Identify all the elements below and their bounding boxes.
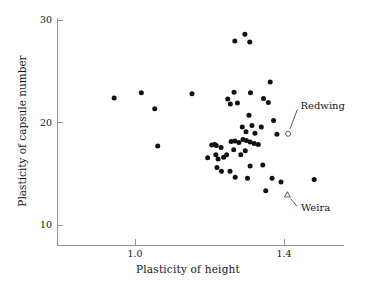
marker-filled-circle (243, 148, 248, 153)
marker-filled-circle (259, 125, 264, 130)
marker-filled-circle (209, 143, 214, 148)
marker-filled-circle (266, 100, 271, 105)
y-tick-label: 20 (30, 117, 52, 128)
x-tick-label: 1.4 (269, 248, 299, 259)
marker-filled-circle (216, 156, 221, 161)
marker-filled-circle (231, 147, 236, 152)
marker-filled-circle (240, 125, 245, 130)
x-axis-title: Plasticity of height (0, 263, 376, 275)
marker-filled-circle (279, 179, 284, 184)
annotation-label: Redwing (301, 100, 345, 111)
marker-filled-circle (219, 169, 224, 174)
marker-filled-circle (235, 101, 240, 106)
marker-filled-circle (219, 145, 224, 150)
marker-filled-circle (252, 131, 257, 136)
marker-filled-circle (221, 155, 226, 160)
marker-filled-circle (152, 106, 157, 111)
y-tick-label: 10 (30, 219, 52, 230)
annotation-leader-line (290, 109, 298, 129)
marker-filled-circle (245, 176, 250, 181)
marker-filled-circle (236, 140, 241, 145)
marker-filled-circle (205, 155, 210, 160)
marker-filled-circle (238, 152, 243, 157)
marker-filled-circle (232, 39, 237, 44)
y-axis-title-wrapper: Plasticity of capsule number (16, 21, 32, 241)
marker-filled-circle (270, 176, 275, 181)
data-points (112, 32, 317, 197)
annotation-leader-line (291, 199, 297, 207)
marker-filled-circle (249, 123, 254, 128)
marker-open-triangle (285, 192, 291, 197)
marker-filled-circle (227, 169, 232, 174)
marker-filled-circle (274, 132, 279, 137)
marker-filled-circle (247, 40, 252, 45)
marker-filled-circle (246, 113, 251, 118)
marker-filled-circle (268, 80, 273, 85)
marker-filled-circle (261, 96, 266, 101)
y-tick-label: 30 (30, 14, 52, 25)
marker-filled-circle (112, 95, 117, 100)
marker-filled-circle (225, 96, 230, 101)
marker-filled-circle (214, 165, 219, 170)
marker-filled-circle (260, 163, 265, 168)
marker-filled-circle (244, 129, 249, 134)
marker-filled-circle (263, 188, 268, 193)
marker-filled-circle (242, 32, 247, 37)
marker-filled-circle (189, 91, 194, 96)
marker-filled-circle (312, 177, 317, 182)
x-tick-label: 1.0 (120, 248, 150, 259)
marker-filled-circle (248, 164, 253, 169)
marker-open-circle (286, 131, 291, 136)
marker-filled-circle (233, 175, 238, 180)
marker-filled-circle (232, 90, 237, 95)
marker-filled-circle (228, 102, 233, 107)
marker-filled-circle (155, 144, 160, 149)
annotation-label: Weira (301, 202, 330, 213)
marker-filled-circle (256, 142, 261, 147)
scatter-plot-figure: 1020301.01.4 RedwingWeira Plasticity of … (0, 0, 376, 288)
marker-filled-circle (271, 118, 276, 123)
marker-filled-circle (214, 143, 219, 148)
plot-canvas (0, 0, 376, 288)
annotation-leader-lines (290, 109, 298, 206)
marker-filled-circle (139, 90, 144, 95)
marker-filled-circle (248, 90, 253, 95)
y-axis-title: Plasticity of capsule number (16, 21, 28, 241)
